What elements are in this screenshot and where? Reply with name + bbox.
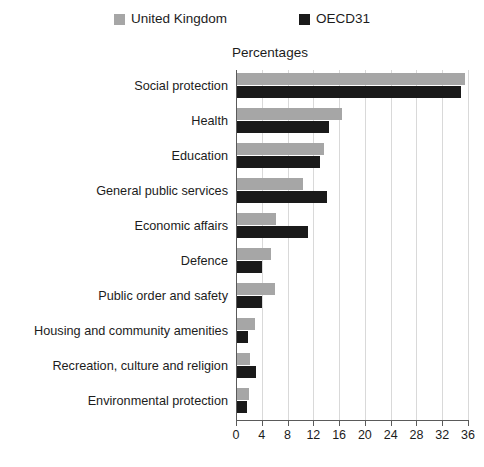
bar-oecd31[interactable] [236, 121, 329, 133]
category-label: Economic affairs [0, 219, 228, 233]
bar-oecd31[interactable] [236, 331, 248, 343]
bar-oecd31[interactable] [236, 401, 247, 413]
x-axis-line [236, 420, 469, 421]
legend-label-united-kingdom: United Kingdom [131, 12, 227, 26]
bar-united-kingdom[interactable] [236, 178, 303, 190]
legend-swatch-united-kingdom [114, 14, 125, 25]
x-tick-label: 28 [404, 428, 428, 442]
category-label: General public services [0, 184, 228, 198]
bar-oecd31[interactable] [236, 226, 308, 238]
category-label: Recreation, culture and religion [0, 359, 228, 373]
x-tick-label: 32 [430, 428, 454, 442]
x-tick-mark [416, 421, 417, 426]
x-tick-label: 4 [250, 428, 274, 442]
bar-united-kingdom[interactable] [236, 108, 342, 120]
bar-oecd31[interactable] [236, 296, 262, 308]
x-tick-label: 16 [327, 428, 351, 442]
category-label: Social protection [0, 79, 228, 93]
bar-group [236, 105, 468, 140]
bar-united-kingdom[interactable] [236, 388, 249, 400]
category-label: Health [0, 114, 228, 128]
bar-oecd31[interactable] [236, 191, 327, 203]
legend-swatch-oecd31 [299, 14, 310, 25]
x-tick-label: 8 [276, 428, 300, 442]
bar-group [236, 385, 468, 420]
x-tick-mark [365, 421, 366, 426]
bar-group [236, 245, 468, 280]
bar-group [236, 315, 468, 350]
chart-subtitle: Percentages [0, 45, 484, 60]
x-tick-label: 12 [301, 428, 325, 442]
legend-item-oecd31[interactable]: OECD31 [299, 12, 370, 26]
bar-oecd31[interactable] [236, 366, 256, 378]
bar-group [236, 175, 468, 210]
category-label: Environmental protection [0, 394, 228, 408]
x-tick-label: 36 [456, 428, 480, 442]
x-tick-label: 20 [353, 428, 377, 442]
bar-group [236, 280, 468, 315]
bar-chart: United Kingdom OECD31 Percentages 048121… [0, 0, 484, 467]
y-axis-line [236, 70, 237, 421]
x-tick-mark [288, 421, 289, 426]
category-label: Public order and safety [0, 289, 228, 303]
x-tick-mark [262, 421, 263, 426]
x-tick-mark [468, 421, 469, 426]
x-tick-label: 24 [379, 428, 403, 442]
bar-united-kingdom[interactable] [236, 283, 275, 295]
category-label: Housing and community amenities [0, 324, 228, 338]
x-tick-label: 0 [224, 428, 248, 442]
plot-area [236, 70, 468, 420]
x-tick-mark [442, 421, 443, 426]
legend-label-oecd31: OECD31 [316, 12, 370, 26]
bar-united-kingdom[interactable] [236, 213, 276, 225]
bar-oecd31[interactable] [236, 156, 320, 168]
x-tick-mark [313, 421, 314, 426]
bar-group [236, 210, 468, 245]
bar-oecd31[interactable] [236, 86, 461, 98]
x-tick-mark [339, 421, 340, 426]
bar-united-kingdom[interactable] [236, 248, 271, 260]
bar-united-kingdom[interactable] [236, 143, 324, 155]
bar-oecd31[interactable] [236, 261, 262, 273]
bar-united-kingdom[interactable] [236, 73, 465, 85]
category-label: Education [0, 149, 228, 163]
gridline [468, 70, 469, 420]
x-tick-mark [236, 421, 237, 426]
legend-item-united-kingdom[interactable]: United Kingdom [114, 12, 227, 26]
category-label: Defence [0, 254, 228, 268]
bar-group [236, 350, 468, 385]
bar-group [236, 70, 468, 105]
bar-group [236, 140, 468, 175]
x-tick-mark [391, 421, 392, 426]
bar-united-kingdom[interactable] [236, 353, 250, 365]
chart-legend: United Kingdom OECD31 [0, 12, 484, 26]
bar-united-kingdom[interactable] [236, 318, 255, 330]
